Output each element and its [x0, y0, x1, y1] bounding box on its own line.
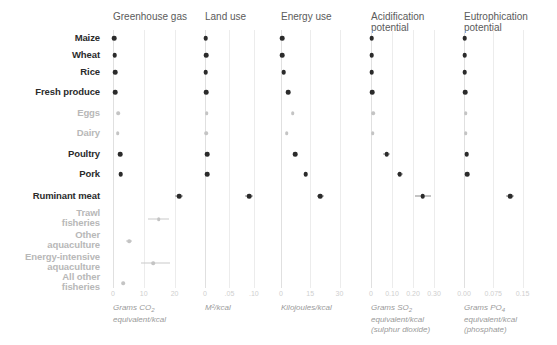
category-label-pork: Pork [0, 169, 100, 179]
data-point [112, 36, 117, 41]
data-point [370, 90, 375, 95]
panel-acidification-potential: Acidification potentialGrams SO2equivale… [371, 0, 455, 345]
panel-title: Greenhouse gas [113, 11, 207, 22]
data-point [247, 194, 252, 199]
panel-title: Land use [205, 11, 285, 22]
data-point [384, 152, 389, 157]
gridline [340, 30, 341, 288]
data-point [157, 217, 161, 221]
data-point [464, 152, 469, 157]
data-point [462, 53, 467, 58]
data-point [127, 239, 131, 243]
category-label-column: MaizeWheatRiceFresh produceEggsDairyPoul… [0, 0, 106, 345]
axis-caption: Kilojoules/kcal [281, 303, 377, 313]
data-point [203, 70, 208, 75]
data-point [116, 111, 120, 115]
axis-caption: Grams CO2equivalent/kcal [113, 303, 211, 325]
axis-caption: M²/kcal [205, 303, 289, 313]
data-point [397, 172, 402, 177]
panel-greenhouse-gas: Greenhouse gasGrams CO2equivalent/kcal [113, 0, 193, 345]
plot-area [371, 30, 455, 288]
data-point [118, 152, 123, 157]
data-point [281, 70, 286, 75]
category-label-all-other-fisheries: All other fisheries [0, 272, 100, 291]
data-point [205, 111, 209, 115]
data-point [371, 131, 375, 135]
gridline [464, 30, 465, 288]
panel-land-use: Land useM²/kcal [205, 0, 271, 345]
data-point [303, 172, 308, 177]
data-point [464, 111, 468, 115]
data-point [464, 131, 468, 135]
data-point [465, 172, 470, 177]
data-point [508, 194, 513, 199]
category-label-other-aquaculture: Other aquaculture [0, 230, 100, 249]
data-point [118, 172, 123, 177]
gridline [413, 30, 414, 288]
gridline [523, 30, 524, 288]
plot-area [205, 30, 271, 288]
data-point [370, 53, 375, 58]
gridline [281, 30, 282, 288]
error-bar [141, 263, 170, 264]
category-label-eggs: Eggs [0, 108, 100, 118]
gridline [371, 30, 372, 288]
gridline [144, 30, 145, 288]
data-point [372, 111, 376, 115]
gridline [493, 30, 494, 288]
data-point [462, 70, 467, 75]
category-label-dairy: Dairy [0, 128, 100, 138]
category-label-wheat: Wheat [0, 50, 100, 60]
data-point [112, 53, 117, 58]
data-point [462, 36, 467, 41]
data-point [205, 131, 209, 135]
gridline [392, 30, 393, 288]
gridline [113, 30, 114, 288]
plot-area [464, 30, 542, 288]
category-label-poultry: Poultry [0, 149, 100, 159]
data-point [370, 36, 375, 41]
data-point [116, 131, 120, 135]
data-point [285, 131, 289, 135]
data-point [421, 194, 426, 199]
gridline [310, 30, 311, 288]
data-point [113, 70, 118, 75]
data-point [291, 111, 295, 115]
data-point [113, 90, 118, 95]
axis-caption: Grams PO4equivalent/kcal(phosphate) [464, 303, 557, 335]
panel-energy-use: Energy useKilojoules/kcal [281, 0, 359, 345]
data-point [293, 152, 298, 157]
data-point [286, 90, 291, 95]
data-point [280, 36, 285, 41]
data-point [204, 90, 209, 95]
data-point [204, 53, 209, 58]
panel-title: Energy use [281, 11, 373, 22]
data-point [204, 36, 209, 41]
panel-eutrophication-potential: Eutrophication potentialGrams PO4equival… [464, 0, 542, 345]
gridline [175, 30, 176, 288]
category-label-maize: Maize [0, 33, 100, 43]
dot-plot-small-multiples: MaizeWheatRiceFresh produceEggsDairyPoul… [0, 0, 557, 345]
data-point [318, 194, 323, 199]
data-point [280, 53, 285, 58]
category-label-energy-intensive-aquaculture: Energy-intensive aquaculture [0, 252, 100, 271]
data-point [151, 261, 155, 265]
data-point [463, 90, 468, 95]
category-label-ruminant-meat: Ruminant meat [0, 191, 100, 201]
gridline [229, 30, 230, 288]
category-label-rice: Rice [0, 67, 100, 77]
plot-area [113, 30, 193, 288]
data-point [122, 281, 126, 285]
data-point [205, 172, 210, 177]
category-label-fresh-produce: Fresh produce [0, 87, 100, 97]
gridline [205, 30, 206, 288]
data-point [205, 152, 210, 157]
data-point [370, 70, 375, 75]
data-point [177, 194, 182, 199]
axis-caption: Grams SO2equivalent/kcal(sulphur dioxide… [371, 303, 473, 335]
plot-area [281, 30, 359, 288]
gridline [434, 30, 435, 288]
gridline [254, 30, 255, 288]
category-label-trawl-fisheries: Trawl fisheries [0, 208, 100, 227]
